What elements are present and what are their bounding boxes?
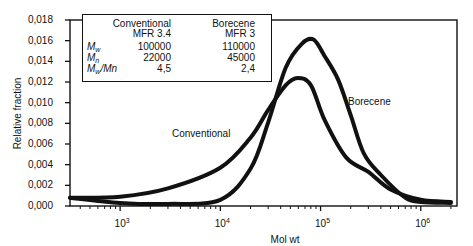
legend-table: Conventional Borecene MFR 3.4 MFR 3 Mw 1… [82, 14, 272, 82]
x-axis-label: Mol wt [250, 234, 320, 245]
legend-subheader-conventional: MFR 3.4 [133, 29, 171, 39]
legend-row-label: Mw/Mn [87, 64, 117, 77]
annotation-conventional: Conventional [172, 128, 230, 139]
x-tick-label: 103 [102, 216, 142, 229]
legend-subheader-borecene: MFR 3 [225, 29, 255, 39]
annotation-borecene: Borecene [348, 96, 391, 107]
legend-value-conventional: 22000 [143, 53, 171, 63]
y-tick-label: 0,000 [3, 201, 53, 211]
y-tick-label: 0,012 [3, 77, 53, 87]
y-tick-label: 0,008 [3, 118, 53, 128]
y-tick-label: 0,014 [3, 56, 53, 66]
y-tick-label: 0,018 [3, 15, 53, 25]
legend-value-borecene: 45000 [227, 53, 255, 63]
y-tick-label: 0,006 [3, 139, 53, 149]
x-tick-label: 106 [403, 216, 443, 229]
legend-value-conventional: 100000 [138, 42, 171, 52]
x-tick-label: 104 [202, 216, 242, 229]
x-tick-label: 105 [303, 216, 343, 229]
y-axis-label: Relative fraction [12, 69, 23, 159]
legend-row-mw-mn: Mw/Mn 4,5 2,4 [83, 64, 271, 75]
legend-value-conventional: 4,5 [157, 64, 171, 74]
y-tick-label: 0,016 [3, 36, 53, 46]
legend-value-borecene: 110000 [222, 42, 255, 52]
y-tick-label: 0,004 [3, 160, 53, 170]
legend-value-borecene: 2,4 [241, 64, 255, 74]
y-tick-label: 0,010 [3, 98, 53, 108]
legend-subheader-row: MFR 3.4 MFR 3 [83, 29, 271, 40]
y-tick-label: 0,002 [3, 180, 53, 190]
